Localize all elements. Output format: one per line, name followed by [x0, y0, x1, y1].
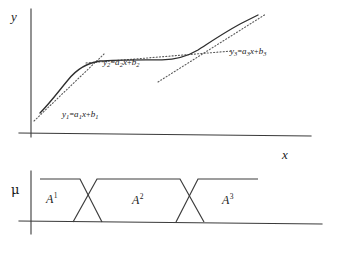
nonlinear-curve [40, 15, 258, 113]
figure-canvas [0, 0, 339, 254]
eq1-coef-sub: 1 [79, 113, 82, 120]
tangent-lines-group [34, 14, 266, 121]
upper-x-axis-label: x [282, 148, 288, 161]
setA1-base: A [46, 192, 53, 206]
setA2-exponent: 2 [140, 192, 144, 201]
membership-x-axis [19, 221, 322, 224]
eq1-lhs-sub: 1 [66, 113, 69, 120]
eq2-const-sub: 2 [136, 61, 139, 68]
eq3-lhs-sub: 3 [234, 50, 237, 57]
equation-label-y3: y3=a3x+b3 [230, 47, 267, 56]
eq3-coef-var: a [242, 46, 247, 56]
nonlinear-curve-group [40, 15, 258, 113]
fuzzy-set-label-A3: A3 [222, 194, 233, 206]
eq2-lhs-sub: 2 [107, 61, 110, 68]
setA3-exponent: 3 [230, 192, 234, 201]
fuzzy-set-label-A2: A2 [132, 194, 143, 206]
membership-y-axis-label: μ [11, 183, 19, 196]
upper-x-axis [19, 133, 311, 136]
upper-y-axis-label: y [11, 10, 17, 23]
eq1-const-sub: 1 [95, 113, 98, 120]
eq3-coef-sub: 3 [247, 50, 250, 57]
membership-plot-axes [19, 171, 322, 234]
equation-label-y1: y1=a1x+b1 [62, 110, 99, 119]
setA2-base: A [132, 193, 139, 207]
setA3-base: A [222, 193, 229, 207]
membership-function-A3 [176, 179, 258, 222]
eq2-coef-sub: 2 [120, 61, 123, 68]
figure-root: y x μ y1=a1x+b1 y2=a2x+b2 y3=a3x+b3 A1 A… [0, 0, 339, 254]
fuzzy-set-label-A1: A1 [46, 193, 57, 205]
eq3-const-sub: 3 [263, 50, 266, 57]
setA1-exponent: 1 [54, 191, 58, 200]
eq2-coef-var: a [115, 57, 120, 67]
eq1-coef-var: a [74, 109, 79, 119]
equation-label-y2: y2=a2x+b2 [103, 58, 140, 67]
